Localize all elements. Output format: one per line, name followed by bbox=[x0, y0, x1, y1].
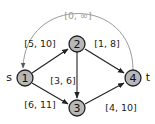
flow-network-diagram: [0, ∞] [5, 10] [1, 8] [3, 6] [6, 11] [4,… bbox=[0, 0, 155, 124]
node-2-label: 2 bbox=[74, 38, 81, 51]
node-3-label: 3 bbox=[74, 102, 81, 115]
edge-2-4 bbox=[85, 49, 124, 73]
node-3: 3 bbox=[69, 100, 85, 116]
edge-label-1-2: [5, 10] bbox=[24, 38, 56, 49]
edge-label-1-3: [6, 11] bbox=[24, 99, 56, 110]
node-1-label: 1 bbox=[22, 72, 29, 85]
edge-label-2-4: [1, 8] bbox=[94, 38, 120, 49]
edge-1-2 bbox=[32, 49, 68, 73]
edge-label-3-4: [4, 10] bbox=[105, 102, 137, 113]
sink-label: t bbox=[146, 71, 151, 84]
edge-label-4-1: [0, ∞] bbox=[64, 10, 91, 21]
node-4-label: 4 bbox=[130, 72, 137, 85]
node-4: 4 bbox=[125, 70, 141, 86]
source-label: s bbox=[6, 71, 12, 84]
node-1: 1 bbox=[17, 70, 33, 86]
node-2: 2 bbox=[69, 36, 85, 52]
edge-label-2-3: [3, 6] bbox=[50, 75, 76, 86]
